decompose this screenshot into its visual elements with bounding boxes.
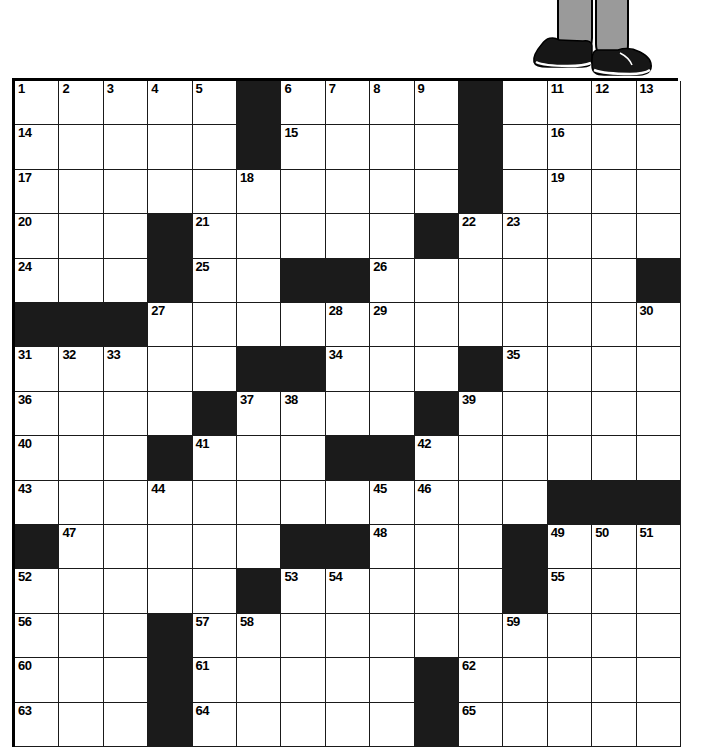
grid-cell[interactable]: 30: [637, 303, 681, 347]
grid-cell[interactable]: 11: [548, 81, 592, 125]
grid-cell[interactable]: [459, 525, 503, 569]
grid-cell[interactable]: [503, 436, 547, 480]
grid-cell[interactable]: [370, 392, 414, 436]
grid-cell[interactable]: 47: [59, 525, 103, 569]
grid-cell[interactable]: 32: [59, 347, 103, 391]
grid-cell[interactable]: 65: [459, 703, 503, 747]
grid-cell[interactable]: [592, 347, 636, 391]
grid-cell[interactable]: [637, 658, 681, 702]
grid-cell[interactable]: [503, 392, 547, 436]
grid-cell[interactable]: [592, 259, 636, 303]
grid-cell[interactable]: 52: [15, 569, 59, 613]
grid-cell[interactable]: 57: [193, 614, 237, 658]
grid-cell[interactable]: 44: [148, 481, 192, 525]
grid-cell[interactable]: [370, 125, 414, 169]
grid-cell[interactable]: [59, 392, 103, 436]
grid-cell[interactable]: [193, 170, 237, 214]
grid-cell[interactable]: [592, 125, 636, 169]
grid-cell[interactable]: [459, 614, 503, 658]
grid-cell[interactable]: [237, 658, 281, 702]
grid-cell[interactable]: 6: [281, 81, 325, 125]
grid-cell[interactable]: 41: [193, 436, 237, 480]
grid-cell[interactable]: [148, 392, 192, 436]
grid-cell[interactable]: 46: [415, 481, 459, 525]
grid-cell[interactable]: 16: [548, 125, 592, 169]
grid-cell[interactable]: 60: [15, 658, 59, 702]
grid-cell[interactable]: 56: [15, 614, 59, 658]
grid-cell[interactable]: [326, 614, 370, 658]
grid-cell[interactable]: 15: [281, 125, 325, 169]
grid-cell[interactable]: [104, 525, 148, 569]
grid-cell[interactable]: [548, 214, 592, 258]
grid-cell[interactable]: 12: [592, 81, 636, 125]
grid-cell[interactable]: [370, 347, 414, 391]
grid-cell[interactable]: 20: [15, 214, 59, 258]
grid-cell[interactable]: [59, 658, 103, 702]
grid-cell[interactable]: [503, 81, 547, 125]
grid-cell[interactable]: 17: [15, 170, 59, 214]
grid-cell[interactable]: 24: [15, 259, 59, 303]
grid-cell[interactable]: [459, 481, 503, 525]
grid-cell[interactable]: [459, 569, 503, 613]
grid-cell[interactable]: [637, 569, 681, 613]
grid-cell[interactable]: 4: [148, 81, 192, 125]
grid-cell[interactable]: [104, 614, 148, 658]
grid-cell[interactable]: 39: [459, 392, 503, 436]
grid-cell[interactable]: [148, 525, 192, 569]
grid-cell[interactable]: [370, 614, 414, 658]
grid-cell[interactable]: [281, 703, 325, 747]
grid-cell[interactable]: [548, 392, 592, 436]
grid-cell[interactable]: 38: [281, 392, 325, 436]
grid-cell[interactable]: 48: [370, 525, 414, 569]
grid-cell[interactable]: [148, 347, 192, 391]
grid-cell[interactable]: [548, 703, 592, 747]
grid-cell[interactable]: 25: [193, 259, 237, 303]
grid-cell[interactable]: [104, 214, 148, 258]
grid-cell[interactable]: [503, 481, 547, 525]
grid-cell[interactable]: [370, 569, 414, 613]
grid-cell[interactable]: [237, 436, 281, 480]
grid-cell[interactable]: [548, 614, 592, 658]
grid-cell[interactable]: [104, 481, 148, 525]
grid-cell[interactable]: 21: [193, 214, 237, 258]
grid-cell[interactable]: [459, 303, 503, 347]
grid-cell[interactable]: [592, 392, 636, 436]
grid-cell[interactable]: [637, 125, 681, 169]
grid-cell[interactable]: [59, 125, 103, 169]
grid-cell[interactable]: [104, 436, 148, 480]
grid-cell[interactable]: [237, 525, 281, 569]
crossword-grid[interactable]: 1234567891112131415161718192021222324252…: [12, 78, 678, 747]
grid-cell[interactable]: 40: [15, 436, 59, 480]
grid-cell[interactable]: 54: [326, 569, 370, 613]
grid-cell[interactable]: [637, 392, 681, 436]
grid-cell[interactable]: 19: [548, 170, 592, 214]
grid-cell[interactable]: [637, 436, 681, 480]
grid-cell[interactable]: [637, 214, 681, 258]
grid-cell[interactable]: 36: [15, 392, 59, 436]
grid-cell[interactable]: [503, 303, 547, 347]
grid-cell[interactable]: 27: [148, 303, 192, 347]
grid-cell[interactable]: [104, 703, 148, 747]
grid-cell[interactable]: 9: [415, 81, 459, 125]
grid-cell[interactable]: 64: [193, 703, 237, 747]
grid-cell[interactable]: [637, 614, 681, 658]
grid-cell[interactable]: [370, 170, 414, 214]
grid-cell[interactable]: [548, 436, 592, 480]
grid-cell[interactable]: [326, 170, 370, 214]
grid-cell[interactable]: [415, 259, 459, 303]
grid-cell[interactable]: [503, 170, 547, 214]
grid-cell[interactable]: [281, 214, 325, 258]
grid-cell[interactable]: [370, 214, 414, 258]
grid-cell[interactable]: [415, 347, 459, 391]
grid-cell[interactable]: 2: [59, 81, 103, 125]
grid-cell[interactable]: [326, 481, 370, 525]
grid-cell[interactable]: 61: [193, 658, 237, 702]
grid-cell[interactable]: [370, 658, 414, 702]
grid-cell[interactable]: 22: [459, 214, 503, 258]
grid-cell[interactable]: [237, 481, 281, 525]
grid-cell[interactable]: 26: [370, 259, 414, 303]
grid-cell[interactable]: 3: [104, 81, 148, 125]
grid-cell[interactable]: [59, 259, 103, 303]
grid-cell[interactable]: [237, 703, 281, 747]
grid-cell[interactable]: [281, 658, 325, 702]
